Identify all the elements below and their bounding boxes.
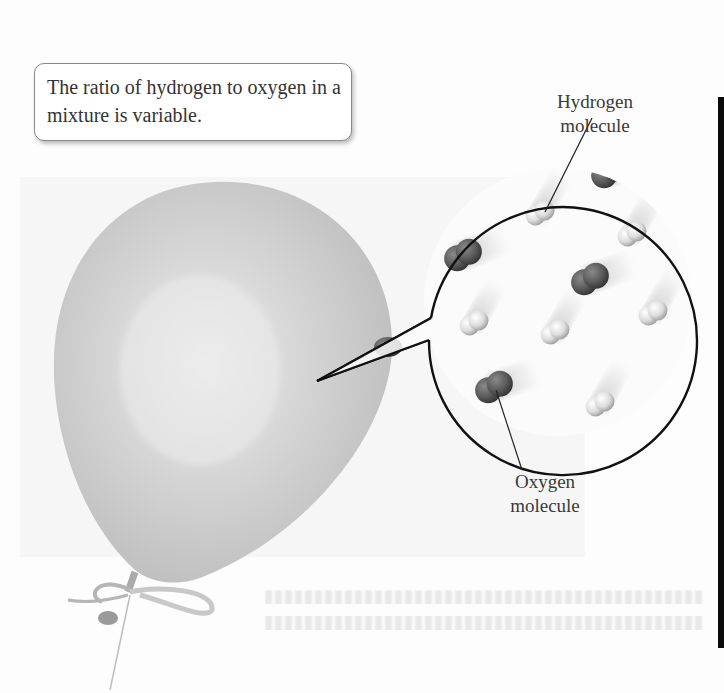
balloon	[54, 182, 392, 583]
oxygen-molecule	[591, 144, 658, 188]
hydrogen-molecule-label: Hydrogen molecule	[540, 90, 650, 138]
oxygen-label-line1: Oxygen	[495, 470, 595, 494]
hydrogen-label-line2: molecule	[540, 114, 650, 138]
balloon-ribbon	[68, 572, 212, 690]
page-edge-bar	[718, 97, 724, 648]
caption-text: The ratio of hydrogen to oxygen in a mix…	[47, 76, 341, 126]
hydrogen-label-line1: Hydrogen	[540, 90, 650, 114]
oxygen-molecule-label: Oxygen molecule	[495, 470, 595, 518]
caption-callout-box: The ratio of hydrogen to oxygen in a mix…	[34, 63, 352, 141]
oxygen-label-line2: molecule	[495, 494, 595, 518]
